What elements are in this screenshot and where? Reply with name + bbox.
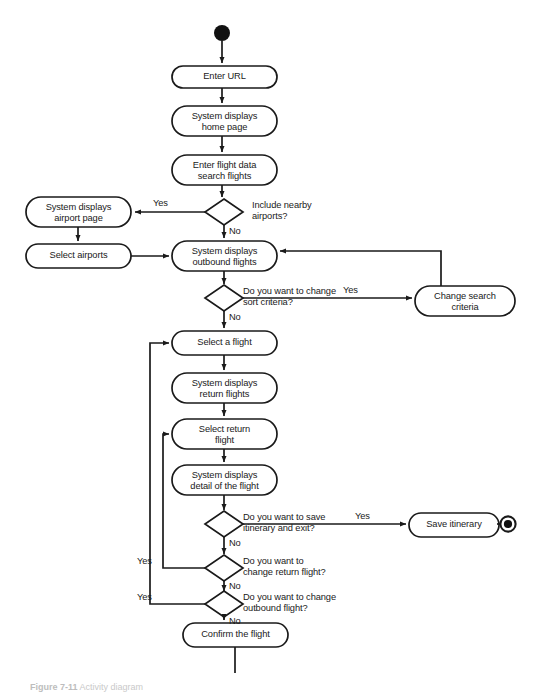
activity-system-airport-page[interactable] (26, 197, 131, 227)
decision-label-change-sort-criteria: Do you want to change sort criteria? (243, 286, 336, 308)
decision-label-change-outbound-flight: Do you want to change outbound flight? (243, 592, 336, 614)
guard-change-sort-no: No (229, 312, 241, 323)
decision-label-include-nearby: Include nearby airports? (252, 200, 312, 222)
activity-enter-url[interactable] (172, 66, 277, 88)
activity-save-itinerary[interactable] (409, 513, 499, 537)
final-node-inner-dot (504, 520, 512, 528)
activity-enter-flight-data[interactable] (172, 155, 277, 185)
activity-select-airports[interactable] (26, 244, 131, 268)
guard-change-outbound-no: No (229, 616, 241, 627)
decision-include-nearby[interactable] (205, 199, 243, 225)
activity-system-return-flights[interactable] (172, 373, 277, 403)
activity-select-a-flight[interactable] (172, 331, 277, 355)
activity-system-detail-of-flight[interactable] (172, 465, 277, 495)
activity-diagram-canvas (0, 0, 536, 695)
decision-label-save-and-exit: Do you want to save itinerary and exit? (243, 512, 325, 534)
figure-caption: Figure 7-11 Activity diagram (30, 682, 143, 695)
guard-change-sort-yes: Yes (343, 285, 358, 296)
figure-caption-text: Activity diagram (80, 682, 144, 692)
guard-change-outbound-yes: Yes (137, 592, 152, 603)
decision-label-change-return-flight: Do you want to change return flight? (243, 556, 326, 578)
edge-return-yes-loop-to-select-return (163, 434, 205, 568)
decision-change-return-flight[interactable] (205, 555, 243, 581)
decision-change-sort-criteria[interactable] (205, 285, 243, 311)
initial-node (214, 25, 230, 41)
activity-system-home-page[interactable] (172, 106, 277, 136)
guard-change-return-yes: Yes (137, 556, 152, 567)
edge-change-search-back-to-outbound (280, 251, 441, 286)
decision-change-outbound-flight[interactable] (205, 591, 243, 617)
guard-save-and-exit-yes: Yes (355, 511, 370, 522)
decision-save-and-exit[interactable] (205, 511, 243, 537)
activity-system-outbound-flights[interactable] (172, 241, 277, 271)
guard-save-and-exit-no: No (229, 538, 241, 549)
guard-change-return-no: No (229, 581, 241, 592)
guard-include-nearby-yes: Yes (153, 198, 168, 209)
guard-include-nearby-no: No (229, 226, 241, 237)
activity-select-return-flight[interactable] (172, 419, 277, 449)
activity-change-search-criteria[interactable] (415, 286, 515, 316)
figure-caption-prefix: Figure 7-11 (30, 682, 78, 692)
